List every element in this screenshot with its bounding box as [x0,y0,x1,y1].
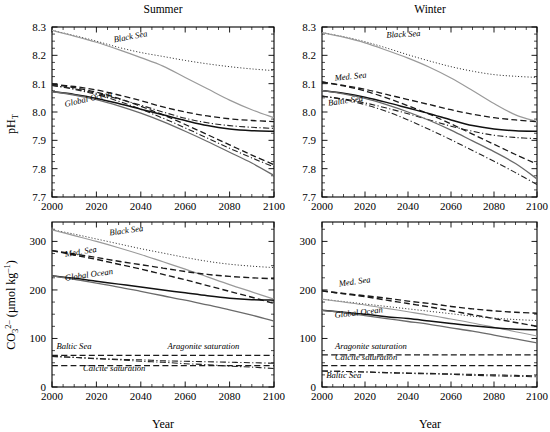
curve-label: Med. Sea [337,274,371,288]
y-tick-label: 0 [41,381,47,393]
x-tick-label: 2020 [354,390,377,402]
y-tick-label: 7.7 [302,191,316,203]
y-tick-label: 7.9 [302,134,316,146]
x-tick-label: 2080 [483,390,506,402]
x-tick-label: 2040 [397,390,420,402]
xlabel-right: Year [419,417,441,431]
y-tick-label: 8.0 [32,106,46,118]
x-tick-label: 2060 [174,390,197,402]
x-tick-label: 2040 [130,390,153,402]
y-tick-label: 300 [30,235,47,247]
ylabel-bottom-units-close: ) [4,260,18,264]
ylabel-bottom: CO32– (µmol kg–1) [2,260,20,350]
y-tick-label: 200 [300,284,317,296]
xlabel-left: Year [152,417,174,431]
svg-text:CO32– (µmol kg–1): CO32– (µmol kg–1) [2,260,20,350]
curve-label: Calcite saturation [335,352,397,362]
curve-label: Calcite saturation [83,363,145,373]
x-tick-label: 2060 [440,200,463,212]
curve-label: Baltic Sea [326,370,361,380]
y-tick-label: 7.7 [32,191,46,203]
y-tick-label: 8.2 [32,49,46,61]
y-tick-label: 8.1 [302,78,316,90]
curve-label: Med. Sea [333,70,367,83]
curve-label: Black Sea [113,28,148,44]
panel-summer-ph: 2000202020402060208021007.77.87.98.08.18… [32,21,285,212]
x-tick-label: 2080 [219,200,242,212]
y-tick-label: 100 [30,332,47,344]
y-tick-label: 8.0 [302,106,316,118]
y-tick-label: 0 [311,381,317,393]
curve-annotations: Black SeaGlobal Ocean [64,28,149,109]
plot-frame [322,27,537,197]
plot-frame [52,27,274,197]
series-line [52,30,274,117]
y-tick-label: 7.9 [32,134,46,146]
x-tick-label: 2100 [263,390,286,402]
x-tick-label: 2020 [354,200,377,212]
x-tick-label: 2100 [526,200,549,212]
y-tick-label: 8.3 [302,21,316,33]
ylabel-bottom-main: CO [4,333,18,350]
x-tick-label: 2020 [85,200,108,212]
tick-marks [322,27,537,197]
ylabel-top-sub: T [10,113,20,119]
y-tick-label: 100 [300,332,317,344]
panel-title-summer: Summer [144,3,183,15]
figure-canvas: Summer Winter pHT CO32– (µmol kg–1) Year… [0,0,550,432]
ylabel-top-main: pH [4,119,18,134]
panel-title-winter: Winter [414,3,446,15]
series-line [52,30,274,70]
ylabel-bottom-units: (µmol kg [4,273,18,321]
y-tick-label: 8.3 [32,21,46,33]
tick-labels: 2000202020402060208021007.77.87.98.08.18… [302,21,548,212]
y-tick-label: 7.8 [32,163,46,175]
curve-label: Black Sea [386,28,421,40]
x-tick-label: 2040 [397,200,420,212]
series-line [52,230,274,299]
y-tick-label: 8.1 [32,78,46,90]
figure-root: Summer Winter pHT CO32– (µmol kg–1) Year… [0,0,550,432]
x-tick-label: 2060 [440,390,463,402]
x-tick-label: 2040 [130,200,153,212]
x-tick-label: 2060 [174,200,197,212]
panel-winter-co3: 2000202020402060208021000100200300Med. S… [300,222,549,402]
ylabel-bottom-units-sup: –1 [2,264,12,274]
tick-marks [52,27,274,197]
panel-winter-ph: 2000202020402060208021007.77.87.98.08.18… [302,21,548,212]
y-tick-label: 200 [30,284,47,296]
svg-text:pHT: pHT [4,113,20,134]
y-tick-label: 300 [300,235,317,247]
panel-summer-co3: 2000202020402060208021000100200300Black … [30,222,286,402]
curve-annotations: Med. SeaGlobal OceanAragonite saturation… [326,274,406,380]
curve-label: Aragonite saturation [334,341,407,351]
x-tick-label: 2080 [219,390,242,402]
y-tick-label: 8.2 [302,49,316,61]
curve-label: Aragonite saturation [166,341,239,351]
ylabel-top: pHT [4,113,20,134]
x-tick-label: 2100 [263,200,286,212]
x-tick-label: 2080 [483,200,506,212]
x-tick-label: 2020 [85,390,108,402]
curve-annotations: Black SeaMed. SeaGlobal OceanBaltic SeaA… [56,223,239,373]
y-tick-label: 7.8 [302,163,316,175]
series-group [322,291,537,377]
series-group [322,33,537,185]
curve-label: Black Sea [109,223,144,238]
x-tick-label: 2100 [526,390,549,402]
curve-annotations: Black SeaMed. SeaBaltic Sea [327,28,420,108]
curve-label: Baltic Sea [56,341,91,351]
curve-label: Baltic Sea [327,93,363,108]
